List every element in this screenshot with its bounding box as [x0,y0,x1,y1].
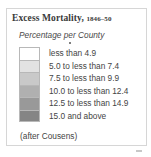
dot-marker-icon [69,42,71,44]
legend-subtitle: Percentage per County [19,30,104,40]
color-swatch [19,60,40,73]
color-swatch [19,110,40,123]
legend-title-years: 1846–50 [86,15,111,23]
color-swatch [19,72,40,85]
source-note: (after Cousens) [20,131,77,141]
legend-item-label: 12.5 to less than 14.9 [49,98,128,108]
legend-item-label: less than 4.9 [49,48,96,58]
decorative-mark [136,150,142,152]
color-swatch [19,85,40,98]
legend-item-label: 5.0 to less than 7.4 [49,61,119,71]
color-swatch [19,47,40,60]
legend-item-label: 10.0 to less than 12.4 [49,86,128,96]
color-swatch [19,97,40,110]
legend-title-text: Excess Mortality, [12,13,84,23]
legend-item-label: 15.0 and above [49,111,106,121]
legend-title: Excess Mortality, 1846–50 [12,13,112,23]
legend-item-label: 7.5 to less than 9.9 [49,73,119,83]
